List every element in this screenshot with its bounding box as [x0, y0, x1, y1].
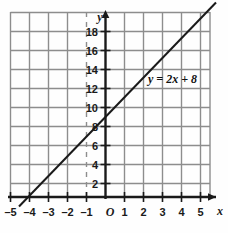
y-axis-label: y: [95, 10, 103, 24]
coordinate-plane: 18 16 14 12 10 8 6 4 2 –5 –4 –3 –2 –1 1 …: [0, 0, 228, 233]
x-tick-label: 5: [197, 206, 203, 218]
y-tick-label: 18: [86, 26, 98, 38]
x-tick-label: 3: [159, 206, 165, 218]
x-tick-label: 2: [140, 206, 146, 218]
x-tick-label: 1: [121, 206, 127, 218]
y-tick-label: 2: [92, 178, 98, 190]
y-tick-label: 4: [92, 159, 99, 171]
y-tick-label: 8: [92, 121, 98, 133]
graph-figure: 18 16 14 12 10 8 6 4 2 –5 –4 –3 –2 –1 1 …: [0, 0, 228, 233]
y-tick-label: 14: [86, 64, 99, 76]
x-tick-label: –5: [4, 206, 16, 218]
x-tick-label: –1: [80, 206, 92, 218]
x-tick-label: –4: [23, 206, 36, 218]
origin-label: O: [106, 205, 115, 219]
x-tick-label: –2: [61, 206, 73, 218]
x-tick-label: –3: [42, 206, 54, 218]
y-tick-label: 12: [86, 83, 98, 95]
equation-annotation: y = 2x + 8: [146, 72, 197, 86]
x-axis-label: x: [216, 204, 223, 218]
y-tick-label: 16: [86, 45, 98, 57]
y-tick-label: 10: [86, 102, 98, 114]
x-tick-label: 4: [178, 206, 185, 218]
y-tick-label: 6: [92, 140, 98, 152]
